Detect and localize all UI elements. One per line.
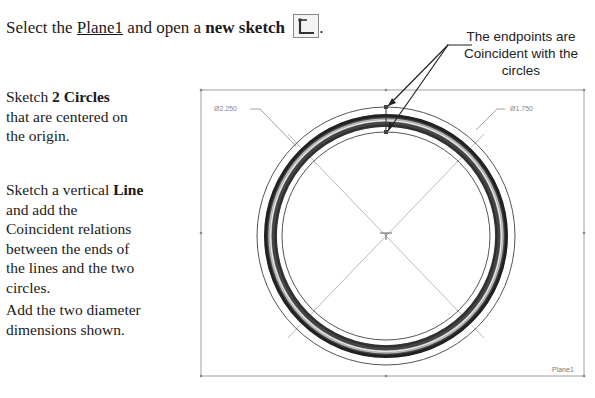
dim-outer-label: Ø2.250	[214, 105, 237, 112]
plane-frame	[201, 90, 584, 376]
sketch-drawing[interactable]: Ø2.250 Ø1.750 Plane1	[0, 0, 595, 398]
origin-icon	[380, 233, 392, 240]
dim-inner-label: Ø1.750	[510, 105, 533, 112]
plane-label: Plane1	[552, 366, 574, 373]
